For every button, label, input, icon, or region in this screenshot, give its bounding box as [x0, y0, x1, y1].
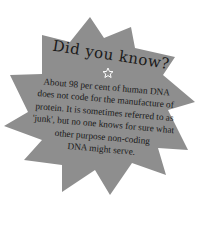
star-outline-icon: [102, 67, 114, 79]
callout-body: About 98 per cent of human DNA does not …: [17, 74, 191, 163]
